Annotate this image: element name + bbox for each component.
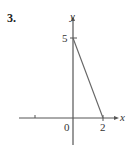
origin-label: 0 — [64, 121, 70, 133]
x-axis-arrow-icon — [114, 116, 119, 120]
y-tick-label-5: 5 — [62, 32, 68, 44]
x-tick-label-2: 2 — [100, 121, 106, 133]
y-axis-label: y — [69, 10, 75, 22]
x-axis-label: x — [119, 111, 125, 123]
chart: y 5 0 2 x — [0, 0, 130, 148]
data-line-segment — [73, 38, 103, 118]
